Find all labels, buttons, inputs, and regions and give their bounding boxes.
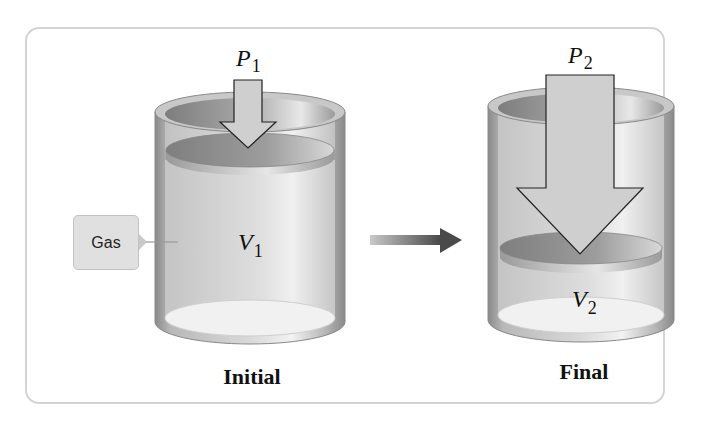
pressure-label-initial: P1 <box>235 45 261 76</box>
final-caption: Final <box>560 359 609 385</box>
initial-caption: Initial <box>223 364 280 390</box>
transition-arrow <box>370 228 462 253</box>
gas-callout: Gas <box>73 215 139 270</box>
pressure-label-final: P2 <box>567 42 593 73</box>
initial-cylinder <box>139 80 345 344</box>
